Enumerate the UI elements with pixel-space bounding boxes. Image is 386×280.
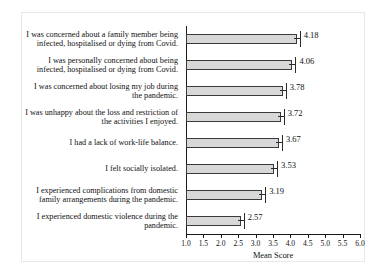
bar-value-label: 3.19 bbox=[269, 186, 284, 196]
bar-row: 4.18 bbox=[186, 26, 360, 52]
x-axis-title: Mean Score bbox=[186, 251, 360, 260]
x-tick bbox=[186, 234, 187, 238]
error-bar-cap bbox=[284, 109, 285, 125]
x-tick bbox=[273, 234, 274, 238]
x-tick-label: 2.0 bbox=[216, 239, 226, 248]
bar bbox=[186, 86, 283, 96]
category-label: I was concerned about a family member be… bbox=[24, 30, 178, 49]
bar-row: 3.53 bbox=[186, 156, 360, 182]
bar-row: 4.06 bbox=[186, 52, 360, 78]
bar-value-label: 2.57 bbox=[248, 212, 263, 222]
x-tick-label: 5.5 bbox=[338, 239, 348, 248]
x-tick-label: 5.0 bbox=[320, 239, 330, 248]
error-bar-cap bbox=[244, 213, 245, 229]
bar-row: 3.72 bbox=[186, 104, 360, 130]
bar bbox=[186, 34, 297, 44]
error-bar-cap bbox=[265, 187, 266, 203]
bar-value-label: 3.78 bbox=[290, 82, 305, 92]
error-bar-cap bbox=[282, 135, 283, 151]
x-axis-ticks: 1.01.52.02.53.03.54.04.55.05.56.0 bbox=[186, 234, 360, 240]
error-bar-cap bbox=[277, 161, 278, 177]
x-tick-label: 4.0 bbox=[286, 239, 296, 248]
bar bbox=[186, 216, 241, 226]
chart-container: I was concerned about a family member be… bbox=[0, 0, 386, 280]
category-label: I was unhappy about the loss and restric… bbox=[24, 108, 178, 127]
x-tick bbox=[308, 234, 309, 238]
error-bar-cap bbox=[295, 57, 296, 73]
x-tick-label: 3.5 bbox=[268, 239, 278, 248]
bar-row: 3.78 bbox=[186, 78, 360, 104]
bar bbox=[186, 164, 274, 174]
bar-value-label: 3.67 bbox=[286, 134, 301, 144]
bar-row: 3.67 bbox=[186, 130, 360, 156]
category-label: I experienced complications from domesti… bbox=[24, 186, 178, 205]
x-tick bbox=[360, 234, 361, 238]
bar bbox=[186, 138, 279, 148]
x-tick-label: 1.5 bbox=[199, 239, 209, 248]
bar bbox=[186, 190, 262, 200]
category-label: I experienced domestic violence during t… bbox=[24, 212, 178, 231]
x-tick-label: 1.0 bbox=[181, 239, 191, 248]
category-label: I was personally concerned about being i… bbox=[24, 56, 178, 75]
x-tick-label: 4.5 bbox=[303, 239, 313, 248]
bar-value-label: 4.06 bbox=[299, 56, 314, 66]
x-tick bbox=[238, 234, 239, 238]
plot-area: 4.184.063.783.723.673.533.192.57 bbox=[186, 26, 360, 234]
bar bbox=[186, 112, 281, 122]
category-label: I felt socially isolated. bbox=[24, 164, 178, 174]
x-tick bbox=[221, 234, 222, 238]
bar-value-label: 3.53 bbox=[281, 160, 296, 170]
bar-row: 2.57 bbox=[186, 208, 360, 234]
error-bar-cap bbox=[300, 31, 301, 47]
bar bbox=[186, 60, 292, 70]
x-tick bbox=[325, 234, 326, 238]
bar-series: 4.184.063.783.723.673.533.192.57 bbox=[186, 26, 360, 234]
category-label: I was concerned about losing my job duri… bbox=[24, 82, 178, 101]
error-bar-cap bbox=[286, 83, 287, 99]
x-tick-label: 2.5 bbox=[233, 239, 243, 248]
x-tick bbox=[256, 234, 257, 238]
bar-value-label: 4.18 bbox=[304, 30, 319, 40]
category-label: I had a lack of work-life balance. bbox=[24, 138, 178, 148]
x-tick bbox=[203, 234, 204, 238]
x-tick bbox=[290, 234, 291, 238]
x-tick-label: 3.0 bbox=[251, 239, 261, 248]
x-tick-label: 6.0 bbox=[355, 239, 365, 248]
bar-value-label: 3.72 bbox=[288, 108, 303, 118]
bar-row: 3.19 bbox=[186, 182, 360, 208]
category-axis-labels: I was concerned about a family member be… bbox=[24, 26, 182, 234]
x-tick bbox=[343, 234, 344, 238]
